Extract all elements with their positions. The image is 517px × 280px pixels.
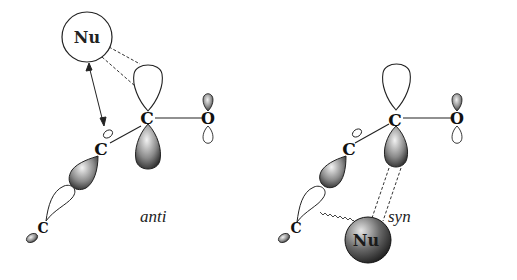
carbonyl-carbon-anti: C (140, 108, 154, 128)
steric-interaction-wavy-line (320, 212, 354, 221)
pi-orbital-open-anti (46, 185, 75, 221)
oxygen-atom-anti: O (201, 109, 215, 128)
syn-panel: O C C C Nu syn (277, 64, 464, 263)
caption-syn: syn (388, 207, 411, 226)
nucleophile-anti: Nu (62, 12, 112, 62)
p-orbital-upper-syn (383, 64, 411, 110)
terminal-carbon-anti: C (37, 220, 48, 236)
caption-anti: anti (140, 207, 167, 226)
pi-orbital-open-syn (297, 186, 325, 222)
pi-orbital-shaded-syn (320, 156, 346, 188)
orbital-diagram: Nu O C C C (0, 0, 517, 280)
pi-orbital-shaded-anti (69, 156, 98, 190)
p-orbital-lower-anti (136, 124, 161, 169)
repulsion-arrow-icon (86, 63, 106, 126)
alpha-carbon-anti: C (94, 139, 108, 159)
p-orbital-lower-syn (384, 126, 407, 167)
p-orbital-upper-anti (134, 65, 163, 111)
terminal-carbon-syn: C (290, 220, 301, 236)
nu-label-syn: Nu (353, 231, 380, 250)
oxygen-atom-syn: O (450, 109, 464, 128)
alpha-carbon-syn: C (342, 139, 356, 159)
anti-panel: Nu O C C C (25, 12, 215, 244)
carbonyl-carbon-syn: C (388, 110, 402, 130)
nucleophile-syn: Nu (345, 217, 391, 263)
nu-label-anti: Nu (74, 28, 101, 47)
